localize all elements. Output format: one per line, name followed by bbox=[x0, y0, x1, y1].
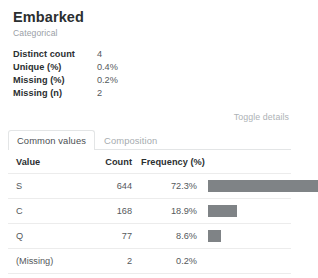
frequency-table: Value Count Frequency (%) S 644 72.3% bbox=[8, 150, 291, 274]
panel-bottom-spacer bbox=[8, 274, 291, 278]
tab-panel-common-values: Value Count Frequency (%) S 644 72.3% bbox=[8, 149, 291, 278]
stats-row: Distinct count 4 bbox=[13, 48, 118, 61]
column-header-count: Count bbox=[90, 150, 132, 174]
toggle-details-row: Toggle details bbox=[0, 100, 299, 124]
frequency-bar bbox=[208, 230, 221, 242]
stats-row: Unique (%) 0.4% bbox=[13, 61, 118, 74]
stats-row: Missing (%) 0.2% bbox=[13, 74, 118, 87]
toggle-details-link[interactable]: Toggle details bbox=[234, 112, 289, 123]
stat-label-distinct-count: Distinct count bbox=[13, 48, 97, 61]
cell-frequency: 18.9% bbox=[132, 199, 197, 224]
cell-frequency: 8.6% bbox=[132, 224, 197, 249]
tabs-container: Common values Composition Value Count Fr… bbox=[8, 131, 291, 278]
stat-value-unique-pct: 0.4% bbox=[97, 61, 118, 74]
cell-bar bbox=[197, 199, 291, 224]
cell-value: Q bbox=[8, 224, 90, 249]
stat-value-missing-n: 2 bbox=[97, 87, 118, 100]
cell-count: 168 bbox=[90, 199, 132, 224]
table-row: Q 77 8.6% bbox=[8, 224, 291, 249]
stat-label-unique-pct: Unique (%) bbox=[13, 61, 97, 74]
cell-value: C bbox=[8, 199, 90, 224]
cell-bar bbox=[197, 224, 291, 249]
frequency-bar bbox=[208, 180, 318, 192]
stat-value-missing-pct: 0.2% bbox=[97, 74, 118, 87]
table-row: C 168 18.9% bbox=[8, 199, 291, 224]
frequency-table-body: S 644 72.3% C 168 18.9% bbox=[8, 174, 291, 274]
stat-label-missing-pct: Missing (%) bbox=[13, 74, 97, 87]
cell-bar bbox=[197, 249, 291, 274]
tab-common-values[interactable]: Common values bbox=[8, 130, 95, 150]
variable-header: Embarked Categorical bbox=[0, 0, 299, 39]
cell-count: 644 bbox=[90, 174, 132, 199]
tab-composition[interactable]: Composition bbox=[95, 130, 166, 150]
page-title: Embarked bbox=[13, 9, 299, 26]
cell-value: S bbox=[8, 174, 90, 199]
table-row: S 644 72.3% bbox=[8, 174, 291, 199]
cell-frequency: 0.2% bbox=[132, 249, 197, 274]
cell-count: 77 bbox=[90, 224, 132, 249]
column-header-bar bbox=[197, 150, 291, 174]
tab-strip: Common values Composition bbox=[8, 131, 291, 150]
column-header-frequency: Frequency (%) bbox=[132, 150, 197, 174]
stat-label-missing-n: Missing (n) bbox=[13, 87, 97, 100]
cell-frequency: 72.3% bbox=[132, 174, 197, 199]
stat-value-distinct-count: 4 bbox=[97, 48, 118, 61]
summary-stats-table: Distinct count 4 Unique (%) 0.4% Missing… bbox=[13, 48, 118, 100]
stats-row: Missing (n) 2 bbox=[13, 87, 118, 100]
variable-type-label: Categorical bbox=[13, 27, 299, 39]
table-row: (Missing) 2 0.2% bbox=[8, 249, 291, 274]
column-header-value: Value bbox=[8, 150, 90, 174]
cell-count: 2 bbox=[90, 249, 132, 274]
table-header-row: Value Count Frequency (%) bbox=[8, 150, 291, 174]
frequency-bar bbox=[208, 205, 237, 217]
cell-bar bbox=[197, 174, 291, 199]
cell-value: (Missing) bbox=[8, 249, 90, 274]
